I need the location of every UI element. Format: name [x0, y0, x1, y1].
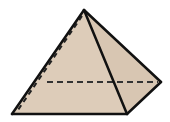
pyramid-figure	[0, 0, 170, 122]
pyramid-diagram	[0, 0, 170, 122]
